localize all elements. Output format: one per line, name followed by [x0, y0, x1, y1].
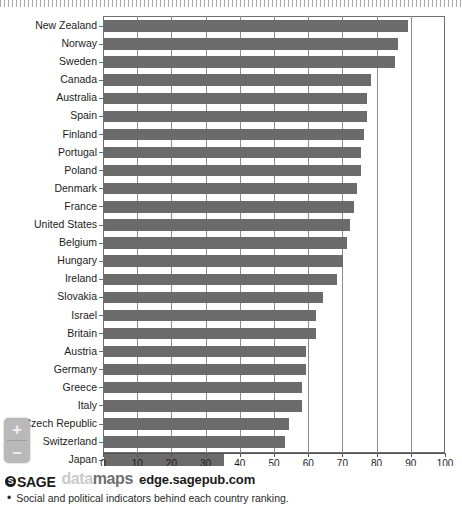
bar-row[interactable]: Finland	[103, 126, 445, 144]
y-tick	[99, 98, 103, 99]
bar[interactable]	[104, 20, 408, 31]
category-label: Norway	[61, 36, 97, 50]
bar[interactable]	[104, 237, 347, 248]
zoom-in-button[interactable]: +	[4, 418, 30, 440]
x-tick	[342, 453, 343, 457]
bar[interactable]	[104, 183, 357, 194]
bar-row[interactable]: Italy	[103, 397, 445, 415]
bar-row[interactable]: Denmark	[103, 180, 445, 198]
category-label: Czech Republic	[23, 416, 97, 430]
bar[interactable]	[104, 74, 371, 85]
zoom-control[interactable]: + –	[4, 418, 30, 463]
bar[interactable]	[104, 400, 302, 411]
bar[interactable]	[104, 255, 343, 266]
footnote: • Social and political indicators behind…	[7, 492, 289, 504]
category-label: Belgium	[59, 235, 97, 249]
bar-row[interactable]: Sweden	[103, 53, 445, 71]
y-tick	[99, 333, 103, 334]
bar[interactable]	[104, 38, 398, 49]
bar-rows: New ZealandNorwaySwedenCanadaAustraliaSp…	[103, 17, 445, 452]
bullet-icon: •	[7, 492, 11, 504]
y-tick	[99, 261, 103, 262]
x-tick	[240, 453, 241, 457]
bar-row[interactable]: Slovakia	[103, 288, 445, 306]
bar-row[interactable]: Germany	[103, 361, 445, 379]
datamaps-wordmark: datamaps	[61, 470, 133, 488]
category-label: Sweden	[59, 54, 97, 68]
category-label: Finland	[63, 127, 97, 141]
bar[interactable]	[104, 201, 354, 212]
bar[interactable]	[104, 328, 316, 339]
y-tick	[99, 387, 103, 388]
sage-logo: SSAGE	[5, 474, 55, 490]
category-label: Israel	[71, 308, 97, 322]
bar[interactable]	[104, 346, 306, 357]
bar-row[interactable]: New Zealand	[103, 17, 445, 35]
bar-row[interactable]: Australia	[103, 89, 445, 107]
bar[interactable]	[104, 292, 323, 303]
bar[interactable]	[104, 364, 306, 375]
bar[interactable]	[104, 310, 316, 321]
category-label: Japan	[68, 452, 97, 466]
category-label: Ireland	[65, 271, 97, 285]
bar-row[interactable]: Spain	[103, 107, 445, 125]
bar-row[interactable]: United States	[103, 216, 445, 234]
bar-row[interactable]: Poland	[103, 162, 445, 180]
category-label: Portugal	[58, 145, 97, 159]
y-tick	[99, 442, 103, 443]
bar-row[interactable]: Greece	[103, 379, 445, 397]
edge-url-text[interactable]: edge.sagepub.com	[139, 472, 255, 487]
bar[interactable]	[104, 129, 364, 140]
bar[interactable]	[104, 436, 285, 447]
footer: SSAGE datamaps edge.sagepub.com • Social…	[0, 466, 462, 515]
bar-row[interactable]: Ireland	[103, 270, 445, 288]
y-tick	[99, 62, 103, 63]
x-tick	[103, 453, 104, 457]
y-tick	[99, 315, 103, 316]
y-tick	[99, 405, 103, 406]
bar-row[interactable]: Austria	[103, 343, 445, 361]
bar-row[interactable]: Canada	[103, 71, 445, 89]
bar[interactable]	[104, 111, 367, 122]
sage-glyph-icon: S	[5, 476, 16, 487]
category-label: Austria	[64, 344, 97, 358]
bar-row[interactable]: Portugal	[103, 144, 445, 162]
bar-row[interactable]: Switzerland	[103, 433, 445, 451]
sage-wordmark: SAGE	[17, 474, 55, 490]
bar[interactable]	[104, 56, 395, 67]
bar[interactable]	[104, 219, 350, 230]
category-label: France	[64, 199, 97, 213]
y-tick	[99, 243, 103, 244]
y-tick	[99, 44, 103, 45]
y-tick	[99, 188, 103, 189]
bar-chart: New ZealandNorwaySwedenCanadaAustraliaSp…	[0, 7, 462, 465]
category-label: Poland	[64, 163, 97, 177]
category-label: Canada	[60, 72, 97, 86]
bar-row[interactable]: Norway	[103, 35, 445, 53]
y-tick	[99, 369, 103, 370]
bar-row[interactable]: Hungary	[103, 252, 445, 270]
y-tick	[99, 116, 103, 117]
y-tick	[99, 134, 103, 135]
bar[interactable]	[104, 93, 367, 104]
x-tick	[206, 453, 207, 457]
bar[interactable]	[104, 165, 361, 176]
x-tick	[377, 453, 378, 457]
bar[interactable]	[104, 274, 337, 285]
y-tick	[99, 225, 103, 226]
bar-row[interactable]: Israel	[103, 307, 445, 325]
category-label: Germany	[54, 362, 97, 376]
x-tick	[411, 453, 412, 457]
bar-row[interactable]: Belgium	[103, 234, 445, 252]
bar-row[interactable]: France	[103, 198, 445, 216]
x-tick	[445, 453, 446, 457]
bar[interactable]	[104, 382, 302, 393]
bar-row[interactable]: Britain	[103, 325, 445, 343]
bar[interactable]	[104, 147, 361, 158]
bar[interactable]	[104, 418, 289, 429]
bar-row[interactable]: Czech Republic	[103, 415, 445, 433]
category-label: Switzerland	[43, 434, 97, 448]
y-tick	[99, 80, 103, 81]
ruler-strip	[0, 0, 462, 7]
zoom-out-button[interactable]: –	[4, 441, 30, 463]
